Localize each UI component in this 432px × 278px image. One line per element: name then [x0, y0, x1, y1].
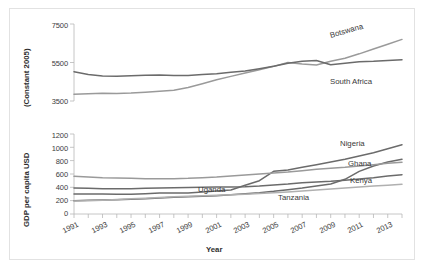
- figure-frame: (Constant 2005) 7500 5500 3500 Botswana …: [9, 8, 415, 260]
- bottom-chart-x-ticks: [74, 214, 402, 218]
- series-label-kenya: Kenya: [350, 176, 372, 185]
- top-chart-panel: (Constant 2005) 7500 5500 3500 Botswana …: [10, 9, 414, 119]
- bottom-chart-series-group: [74, 145, 402, 201]
- bottom-chart-x-axis-title: Year: [206, 245, 222, 254]
- top-chart-series-group: [74, 39, 402, 94]
- series-line-botswana: [74, 39, 402, 94]
- series-line-south-africa: [74, 60, 402, 76]
- bottom-chart-panel: GDP per capita USD 1200 1000 800 600 400…: [10, 119, 414, 261]
- series-label-nigeria: Nigeria: [340, 139, 365, 148]
- top-chart-axis: [70, 24, 74, 101]
- series-label-tanzania: Tanzania: [278, 193, 309, 202]
- series-label-south-africa: South Africa: [330, 77, 372, 86]
- series-label-uganda: Uganda: [198, 185, 225, 194]
- series-label-ghana: Ghana: [348, 159, 371, 168]
